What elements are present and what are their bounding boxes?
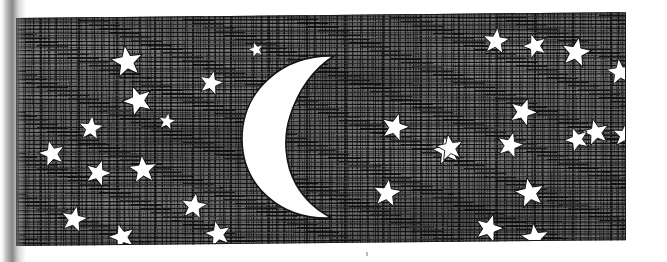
star-icon (370, 177, 404, 211)
star-icon (57, 203, 90, 236)
star-icon (201, 217, 234, 246)
star-icon (434, 132, 466, 164)
star-icon (518, 221, 551, 246)
star-icon (108, 43, 146, 82)
star-icon (480, 26, 511, 57)
illustration-page (0, 0, 667, 262)
crescent-moon-icon (238, 50, 358, 223)
sky-panel (16, 12, 626, 246)
page-gutter-highlight (0, 0, 10, 262)
page-speck (366, 252, 368, 256)
star-icon (557, 34, 595, 71)
star-icon (511, 174, 549, 212)
star-icon (178, 190, 210, 222)
star-icon (127, 153, 160, 186)
star-icon (611, 121, 626, 149)
star-icon (605, 57, 626, 88)
sky-plate-wrapper (16, 12, 626, 246)
star-icon (157, 111, 178, 132)
star-icon (77, 114, 106, 142)
